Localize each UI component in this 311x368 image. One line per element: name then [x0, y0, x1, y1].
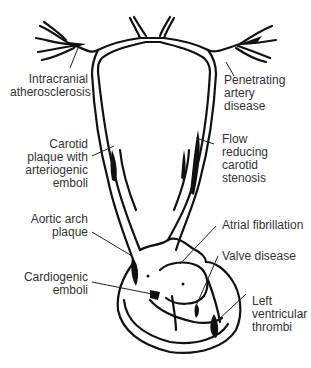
label-carotid-plaque: Carotid plaque with arteriogenic emboli — [10, 138, 88, 190]
label-penetrating-artery-disease: Penetrating artery disease — [224, 74, 304, 113]
label-flow-reducing-stenosis: Flow reducing carotid stenosis — [222, 133, 302, 185]
label-valve-disease: Valve disease — [222, 250, 311, 263]
label-cardiogenic-emboli: Cardiogenic emboli — [10, 271, 88, 297]
label-aortic-arch-plaque: Aortic arch plaque — [10, 213, 88, 239]
label-left-ventricular-thrombi: Left ventricular thrombi — [252, 295, 311, 334]
label-intracranial-atherosclerosis: Intracranial atherosclerosis — [10, 73, 88, 99]
label-atrial-fibrillation: Atrial fibrillation — [222, 219, 311, 232]
